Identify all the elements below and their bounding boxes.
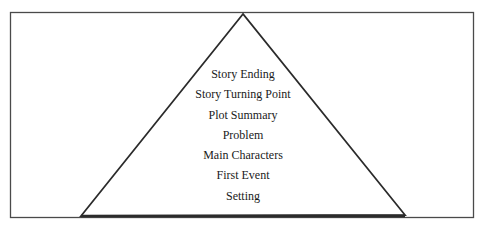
level-story-turning-point: Story Turning Point: [143, 87, 343, 101]
level-problem: Problem: [143, 128, 343, 142]
level-setting: Setting: [143, 189, 343, 203]
level-main-characters: Main Characters: [143, 148, 343, 162]
level-first-event: First Event: [143, 168, 343, 182]
level-story-ending: Story Ending: [143, 67, 343, 81]
level-plot-summary: Plot Summary: [143, 108, 343, 122]
